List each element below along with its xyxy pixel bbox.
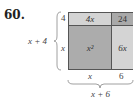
cell-bottom-right: 6x	[112, 26, 133, 69]
left-brace-label: x + 4	[28, 36, 47, 46]
left-top-label: 4	[61, 13, 66, 23]
bottom-brace-icon	[68, 80, 133, 88]
area-model-box: 4x 24 x² 6x	[68, 12, 133, 70]
cell-bottom-left: x²	[69, 26, 112, 69]
cell-top-left: 4x	[69, 13, 112, 26]
bottom-brace-label: x + 6	[91, 89, 110, 99]
left-bottom-label: x	[61, 43, 65, 53]
cell-top-right: 24	[112, 13, 133, 26]
problem-number: 60.	[4, 8, 25, 22]
